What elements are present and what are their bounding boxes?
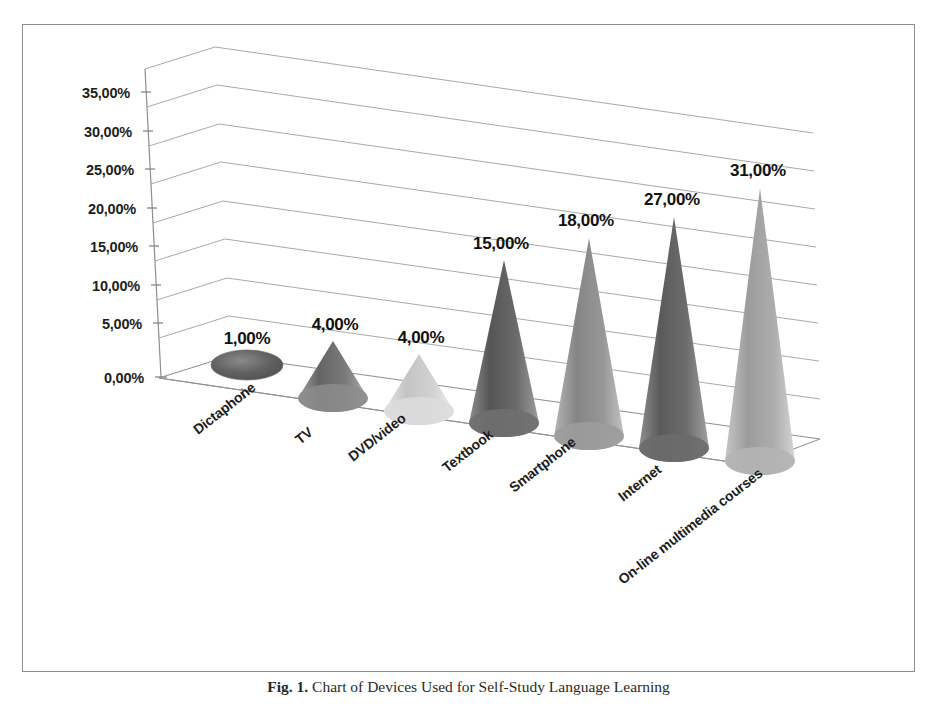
cone-dictaphone[interactable] bbox=[211, 350, 283, 380]
category-label-dvd-video: DVD/video bbox=[345, 410, 409, 465]
y-tick-label-35: 35,00% bbox=[82, 85, 130, 101]
cone-smartphone[interactable] bbox=[554, 238, 624, 450]
data-label-online-multimedia-courses: 31,00% bbox=[730, 161, 786, 180]
category-label-internet: Internet bbox=[615, 461, 664, 505]
data-label-tv: 4,00% bbox=[312, 315, 359, 334]
y-tick-label-5: 5,00% bbox=[102, 316, 142, 332]
data-label-dictaphone: 1,00% bbox=[224, 329, 271, 348]
y-tick-label-20: 20,00% bbox=[88, 201, 136, 217]
y-tick-label-25: 25,00% bbox=[86, 162, 134, 178]
caption-label: Fig. 1. bbox=[267, 678, 308, 695]
cone-online-multimedia-courses[interactable] bbox=[725, 188, 795, 475]
cone-chart-3d: 35,00% 30,00% 25,00% 20,00% 15,00% 10,00… bbox=[23, 25, 916, 673]
category-label-tv: TV bbox=[292, 423, 316, 447]
cone-tv[interactable] bbox=[298, 341, 368, 412]
y-axis-line bbox=[145, 69, 161, 377]
figure-root: 35,00% 30,00% 25,00% 20,00% 15,00% 10,00… bbox=[0, 0, 944, 708]
cone-internet[interactable] bbox=[639, 217, 709, 462]
category-label-textbook: Textbook bbox=[439, 426, 496, 476]
figure-caption: Fig. 1. Chart of Devices Used for Self-S… bbox=[22, 678, 915, 708]
caption-line: Fig. 1. Chart of Devices Used for Self-S… bbox=[22, 678, 915, 695]
y-axis-tick-labels: 35,00% 30,00% 25,00% 20,00% 15,00% 10,00… bbox=[82, 85, 144, 386]
caption-body: Chart of Devices Used for Self-Study Lan… bbox=[312, 678, 670, 695]
data-label-textbook: 15,00% bbox=[473, 234, 529, 253]
y-tick-label-0: 0,00% bbox=[104, 370, 144, 386]
category-label-smartphone: Smartphone bbox=[506, 433, 579, 495]
y-tick-label-10: 10,00% bbox=[92, 278, 140, 294]
data-label-smartphone: 18,00% bbox=[558, 211, 614, 230]
y-tick-label-30: 30,00% bbox=[84, 124, 132, 140]
cone-textbook[interactable] bbox=[469, 260, 539, 437]
chart-frame: 35,00% 30,00% 25,00% 20,00% 15,00% 10,00… bbox=[22, 24, 915, 672]
y-tick-label-15: 15,00% bbox=[90, 239, 138, 255]
data-label-dvd-video: 4,00% bbox=[398, 328, 445, 347]
data-label-internet: 27,00% bbox=[644, 190, 700, 209]
